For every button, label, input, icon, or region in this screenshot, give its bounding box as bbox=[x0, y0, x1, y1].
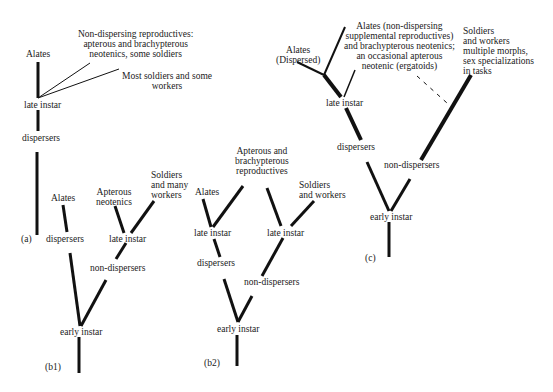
a-soldiers-branch bbox=[38, 69, 119, 98]
a-most-soldiers-label: Most soldiers and some workers bbox=[122, 71, 212, 91]
c-nondispersing-alates-branch bbox=[324, 27, 345, 75]
a-dispersers-label: dispersers bbox=[22, 133, 60, 143]
c-panel-tag: (c) bbox=[365, 253, 376, 263]
a-non-dispersing-label: Non-dispersing reproductives: apterous a… bbox=[78, 29, 193, 59]
c-soldiers-branch bbox=[421, 75, 471, 160]
b1-alates-label: Alates bbox=[51, 193, 75, 203]
a-late-instar-label: late instar bbox=[24, 100, 61, 110]
b1-early-instar-label: early instar bbox=[60, 327, 102, 337]
c-early-instar-label: early instar bbox=[370, 212, 412, 222]
b2-soldiers-branch bbox=[291, 201, 314, 226]
b2-late-instar-right-label: late instar bbox=[267, 228, 304, 238]
b2-early-instar-label: early instar bbox=[217, 324, 259, 334]
c-upper-to-late bbox=[324, 75, 341, 97]
c-nondispersers-branch bbox=[391, 179, 410, 211]
b1-soldiers-branch bbox=[131, 201, 154, 233]
c-late-instar-label: late instar bbox=[326, 98, 363, 108]
b2-late-to-dispersers bbox=[214, 239, 220, 257]
b2-non-dispersers-label: non-dispersers bbox=[244, 277, 299, 287]
b1-dispersers-branch bbox=[70, 253, 80, 326]
c-alates-non-dispersing-label: Alates (non-dispersing supplemental repr… bbox=[344, 21, 455, 71]
b1-non-dispersers-label: non-dispersers bbox=[90, 263, 145, 273]
c-non-dispersers-label: non-dispersers bbox=[384, 160, 439, 170]
b1-apterous-label: Apterous neotenics bbox=[96, 187, 132, 207]
b2-apterous-label: Apterous and brachypterous reproductives bbox=[235, 146, 289, 176]
c-dashed-link bbox=[417, 76, 447, 103]
b2-dispersers-branch bbox=[224, 279, 238, 322]
c-soldiers-label: Soldiers and workers multiple morphs, se… bbox=[463, 26, 534, 76]
b1-alates-branch bbox=[63, 205, 67, 232]
a-nondispersing-branch bbox=[38, 63, 90, 98]
c-late-to-dispersers bbox=[346, 108, 361, 140]
b2-apterous-branch-right bbox=[267, 188, 281, 226]
b2-panel-tag: (b2) bbox=[204, 358, 220, 368]
panel-a-lines bbox=[37, 62, 119, 235]
b2-nondispersers-branch bbox=[238, 296, 252, 322]
b2-dispersers-label: dispersers bbox=[197, 258, 235, 268]
c-alates-dispersed-label: Alates (Dispersed) bbox=[276, 45, 320, 65]
b2-alates-label: Alates bbox=[195, 187, 219, 197]
b1-nondispersers-branch bbox=[81, 280, 106, 326]
c-dispersers-label: dispersers bbox=[337, 142, 375, 152]
b2-soldiers-label: Soldiers and workers bbox=[299, 180, 346, 200]
panel-b2-lines bbox=[203, 186, 314, 366]
b1-dispersers-label: dispersers bbox=[46, 234, 84, 244]
b1-apterous-branch bbox=[115, 206, 124, 233]
a-alates-label: Alates bbox=[26, 49, 50, 59]
b1-soldiers-label: Soldiers and many workers bbox=[151, 170, 188, 200]
b2-late-instar-left-label: late instar bbox=[194, 228, 231, 238]
b1-late-instar-label: late instar bbox=[109, 234, 146, 244]
b2-alates-branch bbox=[203, 199, 211, 227]
c-apterous-branch bbox=[344, 70, 355, 97]
b2-late-to-nondispersers bbox=[262, 238, 283, 276]
b1-panel-tag: (b1) bbox=[45, 362, 61, 372]
a-panel-tag: (a) bbox=[21, 234, 32, 244]
b1-late-to-nondispersers bbox=[116, 243, 126, 259]
panel-b1-lines bbox=[63, 201, 154, 373]
